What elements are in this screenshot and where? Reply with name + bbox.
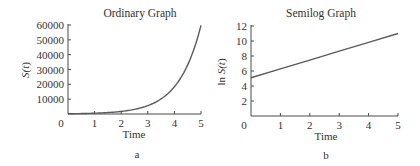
x-tick-label: 2: [307, 119, 313, 131]
ordinary-graph-title: Ordinary Graph: [103, 7, 176, 20]
linear-log-line: [251, 34, 398, 78]
y-axis-label: S(t): [19, 62, 32, 78]
x-tick-label: 5: [198, 117, 204, 129]
x-tick-label: 5: [395, 119, 401, 131]
x-tick-label: 4: [172, 117, 178, 129]
semilog-graph-title: Semilog Graph: [286, 7, 356, 20]
origin-label: 0: [58, 117, 64, 129]
y-tick-label: 50000: [37, 34, 65, 46]
x-tick-label: 4: [366, 119, 372, 131]
x-tick-label: 1: [278, 119, 284, 131]
y-axis-ticks: 100002000030000400005000060000: [37, 19, 72, 105]
y-tick-label: 6: [242, 65, 248, 77]
y-tick-label: 20000: [37, 78, 65, 90]
y-tick-label: 60000: [37, 19, 65, 31]
x-axis-label: Time: [123, 128, 146, 140]
x-axis-label: Time: [315, 130, 338, 142]
x-tick-label: 3: [145, 117, 151, 129]
y-tick-label: 10: [236, 35, 248, 47]
y-tick-label: 8: [242, 50, 248, 62]
ordinary-graph-panel: Ordinary Graph 1000020000300004000050000…: [19, 7, 204, 160]
axes: [68, 24, 201, 114]
y-tick-label: 10000: [37, 93, 65, 105]
semilog-graph-panel: Semilog Graph 24681012 12345 0 Time b ln…: [215, 7, 401, 161]
x-tick-label: 1: [92, 117, 98, 129]
panel-label-b: b: [323, 149, 329, 161]
y-tick-label: 4: [242, 80, 248, 92]
y-tick-label: 2: [242, 95, 248, 107]
y-axis-label: ln S(t): [215, 58, 228, 86]
y-tick-label: 40000: [37, 49, 65, 61]
panel-label-a: a: [135, 148, 140, 160]
y-tick-label: 12: [236, 20, 247, 32]
origin-label: 0: [241, 119, 247, 131]
exponential-curve: [68, 25, 201, 113]
y-tick-label: 30000: [37, 64, 65, 76]
figure: Ordinary Graph 1000020000300004000050000…: [0, 0, 420, 166]
